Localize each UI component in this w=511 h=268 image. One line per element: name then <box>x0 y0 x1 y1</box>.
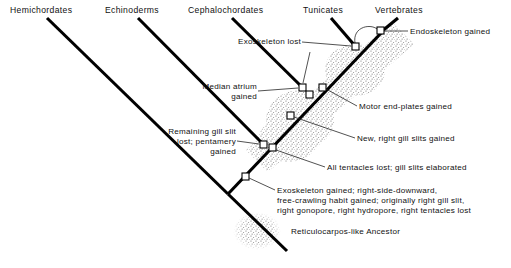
node-all-tentacles-lost[interactable] <box>269 144 276 151</box>
node-remaining-gill-slit[interactable] <box>260 141 267 148</box>
branch-hemichordates <box>47 18 228 194</box>
event-label-exoskeleton-gained-line1: Exoskeleton gained; right-side-downward, <box>277 186 437 195</box>
node-new-right-gill-slits[interactable] <box>287 112 294 119</box>
event-label-exoskeleton-gained-line3: right gonopore, right hydropore, right t… <box>277 206 472 215</box>
node-median-atrium[interactable] <box>299 84 306 91</box>
event-label-exoskeleton-lost: Exoskeleton lost <box>238 37 301 46</box>
event-label-remaining-gill-slit-line1: Remaining gill slit <box>168 127 236 136</box>
event-label-exoskeleton-gained-line2: free-crawling habit gained; originally r… <box>277 196 464 205</box>
event-label-all-tentacles-lost: All tentacles lost; gill slits elaborate… <box>327 163 467 172</box>
ancestor-label-reticulocarpos: Reticulocarpos-like Ancestor <box>291 227 400 236</box>
node-motor-end-plates[interactable] <box>319 84 326 91</box>
node-median-atrium-stem[interactable] <box>306 91 313 98</box>
node-exoskeleton-lost[interactable] <box>352 43 359 50</box>
event-label-median-atrium-line1: Median atrium <box>202 82 257 91</box>
taxon-label-tunicates: Tunicates <box>303 5 343 15</box>
taxon-label-vertebrates: Vertebrates <box>375 5 423 15</box>
cladogram-canvas: Hemichordates Echinoderms Cephalochordat… <box>0 0 511 268</box>
node-exoskeleton-gained[interactable] <box>242 173 249 180</box>
event-label-median-atrium-line2: gained <box>231 92 257 101</box>
event-label-motor-end-plates: Motor end-plates gained <box>359 102 452 111</box>
taxon-label-echinoderms: Echinoderms <box>105 5 159 15</box>
taxon-label-hemichordates: Hemichordates <box>10 5 72 15</box>
cladogram-figure: Hemichordates Echinoderms Cephalochordat… <box>0 0 511 268</box>
event-label-new-right-gill-slits: New, right gill slits gained <box>357 134 455 143</box>
taxon-label-cephalochordates: Cephalochordates <box>188 5 263 15</box>
event-label-remaining-gill-slit-line3: gained <box>210 147 236 156</box>
event-label-remaining-gill-slit-line2: lost; pentamery <box>177 137 237 146</box>
event-label-endoskeleton-gained: Endoskeleton gained <box>410 27 490 36</box>
node-endoskeleton-gained[interactable] <box>377 27 384 34</box>
